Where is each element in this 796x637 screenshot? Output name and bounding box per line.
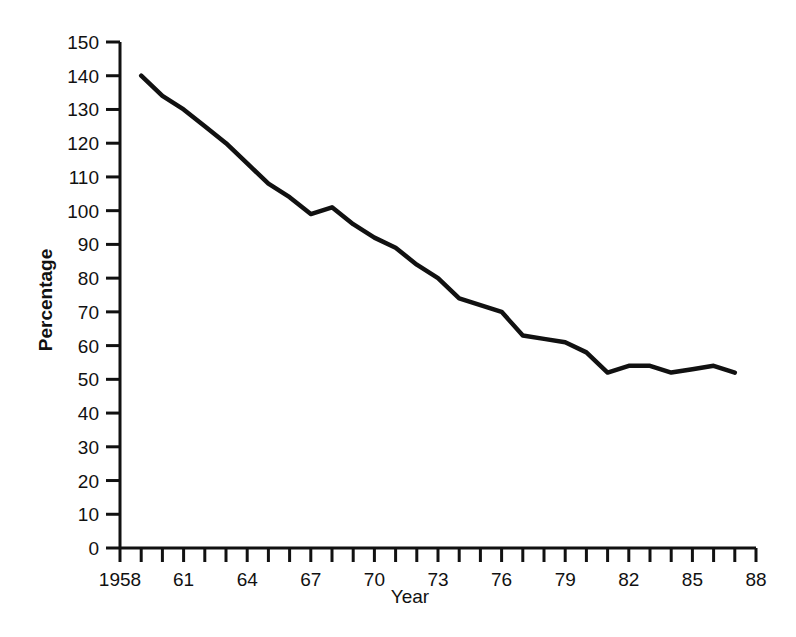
x-axis-tick-label: 70 (364, 569, 385, 590)
y-axis-tick-label: 90 (78, 234, 99, 255)
x-axis-tick-label: 73 (427, 569, 448, 590)
x-axis-tick-label: 79 (555, 569, 576, 590)
y-axis-ticks (106, 42, 120, 548)
y-axis-tick-label: 140 (67, 66, 99, 87)
y-axis-tick-label: 80 (78, 268, 99, 289)
y-axis-title: Percentage (35, 249, 56, 351)
x-axis-ticks (120, 548, 756, 562)
data-series-line (141, 76, 735, 373)
y-axis-tick-label: 30 (78, 437, 99, 458)
chart-figure: 0102030405060708090100110120130140150 19… (0, 0, 796, 637)
y-axis-tick-label: 10 (78, 504, 99, 525)
x-axis-tick-label: 88 (745, 569, 766, 590)
y-axis-tick-label: 40 (78, 403, 99, 424)
x-axis-tick-label: 1958 (99, 569, 141, 590)
x-axis-tick-label: 85 (682, 569, 703, 590)
y-axis-tick-label: 130 (67, 99, 99, 120)
y-axis-tick-labels: 0102030405060708090100110120130140150 (67, 32, 99, 559)
y-axis-tick-label: 150 (67, 32, 99, 53)
x-axis-tick-label: 67 (300, 569, 321, 590)
y-axis-tick-label: 20 (78, 471, 99, 492)
x-axis-title: Year (391, 586, 430, 607)
x-axis-tick-label: 61 (173, 569, 194, 590)
x-axis-tick-label: 82 (618, 569, 639, 590)
y-axis-tick-label: 50 (78, 369, 99, 390)
x-axis-tick-label: 64 (237, 569, 259, 590)
x-axis-tick-labels: 195861646770737679828588 (99, 569, 767, 590)
y-axis-tick-label: 70 (78, 302, 99, 323)
y-axis-tick-label: 60 (78, 336, 99, 357)
y-axis-tick-label: 100 (67, 201, 99, 222)
y-axis-tick-label: 120 (67, 133, 99, 154)
line-chart: 0102030405060708090100110120130140150 19… (0, 0, 796, 637)
x-axis-tick-label: 76 (491, 569, 512, 590)
y-axis-tick-label: 110 (69, 167, 99, 188)
y-axis-tick-label: 0 (88, 538, 99, 559)
